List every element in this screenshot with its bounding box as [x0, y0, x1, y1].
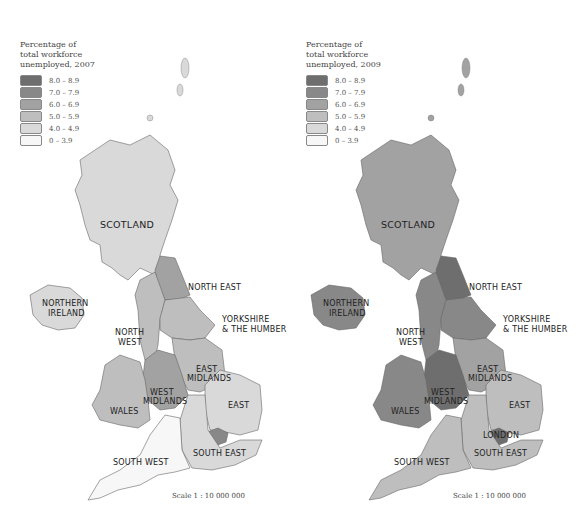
region-label-west-midlands: MIDLANDS [424, 397, 468, 406]
region-label-east-midlands: EAST [196, 365, 217, 374]
uk-map-2009: SCOTLANDNORTHERNIRELANDNORTH EASTNORTHWE… [293, 0, 586, 526]
island-shape [177, 84, 183, 96]
region-yorkshire [160, 297, 215, 340]
region-label-west-midlands: MIDLANDS [143, 397, 187, 406]
region-label-north-west: NORTH [396, 328, 425, 337]
region-label-northern-ireland: NORTHERN [323, 299, 369, 308]
region-label-east: EAST [509, 401, 530, 410]
region-label-east-midlands: MIDLANDS [187, 374, 231, 383]
region-label-south-east: SOUTH EAST [193, 449, 246, 458]
region-label-wales: WALES [110, 407, 139, 416]
region-label-yorkshire: YORKSHIRE [502, 315, 550, 324]
region-label-east: EAST [228, 401, 249, 410]
region-label-northern-ireland: IRELAND [48, 309, 85, 318]
region-label-scotland: SCOTLAND [381, 219, 435, 230]
region-label-north-east: NORTH EAST [188, 283, 241, 292]
region-label-south-west: SOUTH WEST [113, 458, 169, 467]
map-panel-2007: Percentage of total workforce unemployed… [0, 0, 293, 526]
region-label-northern-ireland: NORTHERN [42, 299, 88, 308]
region-label-east-midlands: EAST [477, 365, 498, 374]
region-label-yorkshire: & THE HUMBER [222, 325, 287, 334]
region-yorkshire [441, 297, 496, 340]
region-label-east-midlands: MIDLANDS [468, 374, 512, 383]
map-panel-2009: Percentage of total workforce unemployed… [293, 0, 586, 526]
region-label-wales: WALES [391, 407, 420, 416]
region-label-north-west: NORTH [115, 328, 144, 337]
island-shape [462, 58, 470, 78]
region-wales [373, 355, 431, 428]
region-label-south-east: SOUTH EAST [474, 449, 527, 458]
scale-label: Scale 1 : 10 000 000 [172, 492, 245, 500]
region-label-yorkshire: YORKSHIRE [221, 315, 269, 324]
region-label-north-west: WEST [118, 338, 142, 347]
island-shape [181, 58, 189, 78]
uk-map-2007: SCOTLANDNORTHERNIRELANDNORTH EASTNORTHWE… [0, 0, 293, 526]
region-label-north-east: NORTH EAST [469, 283, 522, 292]
region-label-london: LONDON [483, 431, 519, 440]
island-shape [458, 84, 464, 96]
island-shape [147, 115, 153, 121]
region-label-west-midlands: WEST [431, 388, 455, 397]
region-label-west-midlands: WEST [150, 388, 174, 397]
region-label-northern-ireland: IRELAND [329, 309, 366, 318]
region-label-yorkshire: & THE HUMBER [503, 325, 568, 334]
region-label-scotland: SCOTLAND [100, 219, 154, 230]
region-label-south-west: SOUTH WEST [394, 458, 450, 467]
scale-label: Scale 1 : 10 000 000 [453, 492, 526, 500]
region-label-north-west: WEST [399, 338, 423, 347]
island-shape [428, 115, 434, 121]
region-wales [92, 355, 150, 428]
